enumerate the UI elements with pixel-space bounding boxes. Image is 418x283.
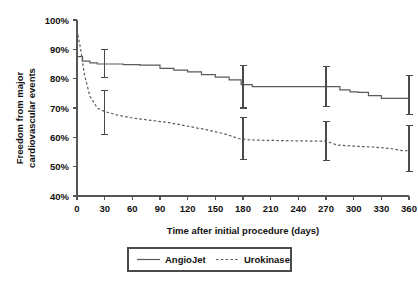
error-bar [240, 65, 247, 108]
y-axis-title: Freedom from major cardiovascular events [14, 68, 37, 168]
y-tick-label: 50% [50, 161, 70, 172]
x-tick-label: 270 [318, 203, 334, 214]
x-tick-label: 0 [74, 203, 79, 214]
y-tick-label: 60% [50, 132, 70, 143]
survival-curve-chart: Freedom from major cardiovascular events… [0, 0, 418, 283]
chart-figure: Freedom from major cardiovascular events… [0, 0, 418, 283]
y-tick-label: 100% [45, 15, 70, 26]
x-tick-label: 60 [127, 203, 138, 214]
x-tick-label: 300 [346, 203, 362, 214]
x-tick-label: 150 [207, 203, 223, 214]
x-tick-label: 30 [99, 203, 110, 214]
x-tick-label: 120 [180, 203, 196, 214]
x-tick-label: 240 [290, 203, 306, 214]
x-tick-label: 330 [373, 203, 389, 214]
y-tick-label: 90% [50, 44, 70, 55]
x-axis-tick-labels: 0306090120150180210240270300330360 [74, 203, 417, 214]
error-bars-group [101, 50, 412, 171]
x-tick-label: 90 [155, 203, 166, 214]
x-axis-tick-marks [77, 196, 409, 200]
x-tick-label: 360 [401, 203, 417, 214]
legend-label-angiojet: AngioJet [165, 254, 206, 265]
x-tick-label: 210 [263, 203, 279, 214]
error-bar [406, 76, 413, 115]
y-axis-tick-marks [73, 20, 77, 196]
y-axis-title-line2: cardiovascular events [26, 68, 37, 168]
error-bar [406, 126, 413, 171]
legend-label-urokinase: Urokinase [244, 254, 290, 265]
y-axis-tick-labels: 40%50%60%70%80%90%100% [45, 15, 70, 202]
y-tick-label: 40% [50, 191, 70, 202]
y-tick-label: 80% [50, 73, 70, 84]
error-bar [323, 121, 330, 161]
y-tick-label: 70% [50, 103, 70, 114]
x-axis-title: Time after initial procedure (days) [167, 225, 319, 236]
y-axis-title-line1: Freedom from major [14, 72, 25, 165]
x-tick-label: 180 [235, 203, 251, 214]
